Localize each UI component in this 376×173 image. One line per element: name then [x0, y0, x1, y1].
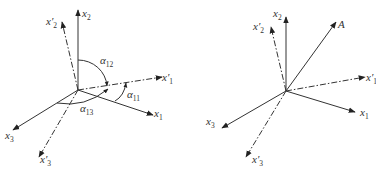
- axis-x2-prime: [271, 27, 286, 91]
- axis-x3: [13, 90, 78, 130]
- label-x1-prime: x′1: [365, 71, 376, 86]
- label-alpha-11: α11: [127, 88, 140, 103]
- label-x1: x1: [153, 107, 163, 122]
- right-diagram: x2 x′2 A x′1 x1 x3 x′3: [205, 7, 376, 168]
- label-x3: x3: [4, 129, 14, 144]
- label-alpha-13: α13: [80, 102, 94, 117]
- label-x2-prime: x′2: [252, 20, 264, 35]
- axis-x3: [222, 91, 286, 128]
- label-vector-A: A: [337, 18, 345, 30]
- label-x1: x1: [359, 106, 369, 121]
- axis-x1: [286, 91, 355, 112]
- label-alpha-12: α12: [100, 54, 114, 69]
- coordinate-rotation-figure: x2 x′2 x′1 x1 x3 x′3 α12 α11 α13 x2 x′2 …: [0, 0, 376, 173]
- label-x3: x3: [205, 115, 215, 130]
- axis-x1-prime: [286, 77, 365, 91]
- label-x1-prime: x′1: [161, 71, 173, 86]
- label-x3-prime: x′3: [39, 153, 51, 168]
- label-x2: x2: [81, 7, 91, 22]
- axis-x3-prime: [39, 90, 78, 157]
- axis-x1-prime: [78, 77, 162, 90]
- vector-A: [286, 22, 336, 91]
- axis-x3-prime: [246, 91, 286, 157]
- label-x2-prime: x′2: [45, 15, 57, 30]
- label-x3-prime: x′3: [251, 153, 263, 168]
- left-diagram: x2 x′2 x′1 x1 x3 x′3 α12 α11 α13: [4, 7, 173, 168]
- angle-arc-a11: [115, 83, 126, 101]
- label-x2: x2: [272, 7, 282, 22]
- axis-x2-prime: [62, 22, 78, 90]
